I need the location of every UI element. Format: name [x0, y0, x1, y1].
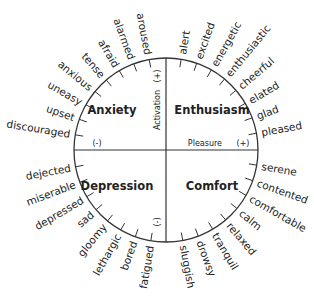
- pleasure-axis-label: Pleasure: [188, 139, 222, 148]
- affect-circumplex-diagram: alertexcitedenergeticenthusiasticcheerfu…: [0, 0, 314, 303]
- activation-positive-label: (+): [153, 70, 162, 83]
- emotion-word-glad: glad: [255, 102, 280, 121]
- tick-mark: [151, 233, 152, 241]
- activation-axis-label: Activation: [153, 90, 162, 130]
- tick-mark: [106, 80, 111, 86]
- tick-mark: [221, 214, 226, 220]
- tick-mark: [75, 135, 83, 136]
- quadrant-label-comfort: Comfort: [186, 179, 239, 193]
- emotion-word-aroused: aroused: [135, 12, 154, 56]
- emotion-word-sad: sad: [74, 208, 96, 229]
- tick-mark: [96, 205, 102, 210]
- tick-mark: [219, 79, 224, 85]
- tick-mark: [76, 165, 84, 166]
- emotion-word-bored: bored: [118, 239, 139, 272]
- emotion-words: alertexcitedenergeticenthusiasticcheerfu…: [6, 12, 310, 290]
- tick-mark: [239, 191, 246, 195]
- quadrant-label-enthusiasm: Enthusiasm: [174, 103, 249, 117]
- tick-mark: [231, 203, 237, 208]
- emotion-word-discouraged: discouraged: [6, 117, 72, 139]
- tick-mark: [195, 229, 198, 236]
- tick-mark: [149, 60, 150, 68]
- activation-negative-label: (-): [153, 217, 162, 226]
- tick-mark: [119, 71, 123, 78]
- tick-mark: [121, 223, 125, 230]
- emotion-word-sluggish: sluggish: [178, 244, 198, 289]
- emotion-word-dejected: dejected: [25, 162, 72, 182]
- tick-mark: [87, 193, 94, 197]
- emotion-word-alert: alert: [176, 29, 192, 55]
- tick-mark: [249, 164, 257, 165]
- tick-mark: [230, 90, 236, 95]
- tick-mark: [245, 178, 253, 181]
- tick-mark: [181, 233, 182, 241]
- emotion-word-fatigued: fatigued: [137, 245, 156, 290]
- tick-mark: [107, 215, 112, 221]
- quadrant-label-anxiety: Anxiety: [87, 103, 137, 117]
- quadrant-label-depression: Depression: [81, 179, 154, 193]
- tick-mark: [249, 133, 257, 134]
- emotion-word-serene: serene: [261, 160, 298, 178]
- pleasure-positive-label: (+): [237, 139, 250, 148]
- tick-mark: [79, 119, 87, 122]
- tick-mark: [209, 222, 213, 229]
- tick-mark: [194, 63, 197, 71]
- tick-mark: [207, 70, 211, 77]
- tick-mark: [95, 91, 101, 96]
- tick-mark: [135, 229, 138, 237]
- emotion-word-pleased: pleased: [260, 119, 303, 138]
- emotion-word-upset: upset: [45, 102, 77, 123]
- tick-mark: [180, 59, 181, 67]
- tick-mark: [245, 118, 252, 121]
- tick-mark: [134, 64, 137, 71]
- pleasure-negative-label: (-): [92, 139, 101, 148]
